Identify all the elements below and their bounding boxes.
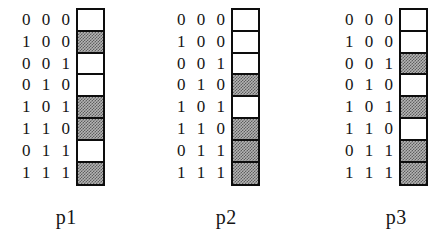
grid-cell [233,54,258,76]
row-label: 0 0 0 [345,9,397,31]
column-caption-p3: p3 [355,206,438,229]
column-body-p1: 0 0 0 1 0 0 0 0 1 0 1 0 1 0 1 1 1 0 0 1 … [22,8,105,186]
grid-cell [78,119,103,141]
cell-column-p2 [231,8,260,186]
row-label: 0 0 1 [345,53,397,75]
column-group-p3: 0 0 0 1 0 0 0 0 1 0 1 0 1 0 1 1 1 0 0 1 … [345,8,428,186]
row-label: 0 1 1 [22,140,74,162]
row-labels-p3: 0 0 0 1 0 0 0 0 1 0 1 0 1 0 1 1 1 0 0 1 … [345,8,397,183]
column-body-p3: 0 0 0 1 0 0 0 0 1 0 1 0 1 0 1 1 1 0 0 1 … [345,8,428,186]
column-group-p1: 0 0 0 1 0 0 0 0 1 0 1 0 1 0 1 1 1 0 0 1 … [22,8,105,186]
column-caption-p1: p1 [25,206,108,229]
cell-column-p1 [76,8,105,186]
cell-column-p3 [399,8,428,186]
grid-cell [233,163,258,185]
column-caption-p2: p2 [185,206,268,229]
grid-cell [78,10,103,32]
grid-cell [233,10,258,32]
grid-cell [78,32,103,54]
row-label: 0 1 0 [345,74,397,96]
row-label: 1 1 0 [177,118,229,140]
row-label: 0 0 1 [177,53,229,75]
row-label: 1 0 0 [345,31,397,53]
grid-cell [233,141,258,163]
grid-cell [78,97,103,119]
row-label: 0 1 0 [177,74,229,96]
column-group-p2: 0 0 0 1 0 0 0 0 1 0 1 0 1 0 1 1 1 0 0 1 … [177,8,260,186]
grid-cell [401,32,426,54]
row-label: 0 1 0 [22,74,74,96]
grid-cell [78,141,103,163]
binary-truth-table-figure: 0 0 0 1 0 0 0 0 1 0 1 0 1 0 1 1 1 0 0 1 … [0,0,439,243]
grid-cell [401,54,426,76]
grid-cell [78,75,103,97]
grid-cell [401,119,426,141]
row-label: 1 1 1 [345,162,397,184]
row-labels-p1: 0 0 0 1 0 0 0 0 1 0 1 0 1 0 1 1 1 0 0 1 … [22,8,74,183]
column-body-p2: 0 0 0 1 0 0 0 0 1 0 1 0 1 0 1 1 1 0 0 1 … [177,8,260,186]
grid-cell [401,10,426,32]
row-label: 0 1 1 [177,140,229,162]
row-labels-p2: 0 0 0 1 0 0 0 0 1 0 1 0 1 0 1 1 1 0 0 1 … [177,8,229,183]
row-label: 0 0 0 [177,9,229,31]
grid-cell [401,163,426,185]
grid-cell [233,119,258,141]
row-label: 1 1 0 [22,118,74,140]
grid-cell [233,97,258,119]
row-label: 1 0 0 [177,31,229,53]
row-label: 1 0 1 [177,96,229,118]
row-label: 1 1 1 [22,162,74,184]
row-label: 0 0 0 [22,9,74,31]
grid-cell [401,141,426,163]
grid-cell [78,54,103,76]
row-label: 0 1 1 [345,140,397,162]
grid-cell [78,163,103,185]
grid-cell [401,75,426,97]
grid-cell [233,75,258,97]
grid-cell [233,32,258,54]
row-label: 1 0 1 [345,96,397,118]
row-label: 1 1 0 [345,118,397,140]
row-label: 1 0 0 [22,31,74,53]
row-label: 1 0 1 [22,96,74,118]
row-label: 0 0 1 [22,53,74,75]
row-label: 1 1 1 [177,162,229,184]
grid-cell [401,97,426,119]
